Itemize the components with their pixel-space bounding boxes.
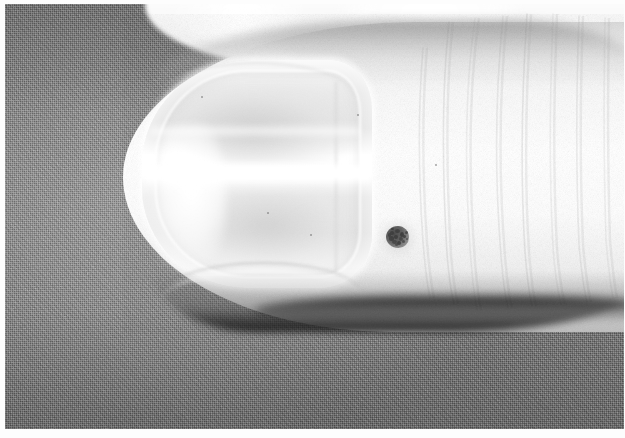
dust-speck: [201, 96, 203, 98]
lesion-speckle: [391, 228, 394, 230]
photograph-frame: [0, 0, 625, 438]
lesion-speckle: [394, 235, 398, 239]
dust-speck: [357, 114, 359, 116]
lesion-speckle: [388, 233, 391, 237]
dust-speck: [267, 212, 269, 214]
dust-speck: [435, 164, 437, 166]
lesion-speckle: [402, 240, 405, 243]
lesion-speckle: [406, 238, 408, 240]
cast-shadow-on-cloth: [255, 296, 624, 324]
lesion-speckle: [405, 231, 408, 234]
pigmented-lesion: [378, 218, 418, 258]
dust-speck: [310, 234, 312, 236]
lesion-speckle: [395, 243, 398, 246]
photograph-canvas: [5, 4, 624, 429]
